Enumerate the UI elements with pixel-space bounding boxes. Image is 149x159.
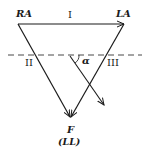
einthoven-triangle-diagram: RA I LA II α III F (LL) bbox=[0, 0, 149, 159]
lead-3-arrow bbox=[71, 24, 124, 117]
label-lead-2: II bbox=[25, 57, 33, 68]
lead-2-arrow bbox=[18, 24, 70, 117]
label-la: LA bbox=[115, 8, 131, 19]
label-lead-1: I bbox=[68, 9, 72, 20]
label-ra: RA bbox=[15, 8, 32, 19]
label-alpha: α bbox=[82, 55, 90, 66]
label-lead-3: III bbox=[107, 57, 119, 68]
label-f: F bbox=[66, 124, 75, 135]
label-ll: (LL) bbox=[58, 136, 80, 147]
angle-arc bbox=[75, 55, 79, 63]
